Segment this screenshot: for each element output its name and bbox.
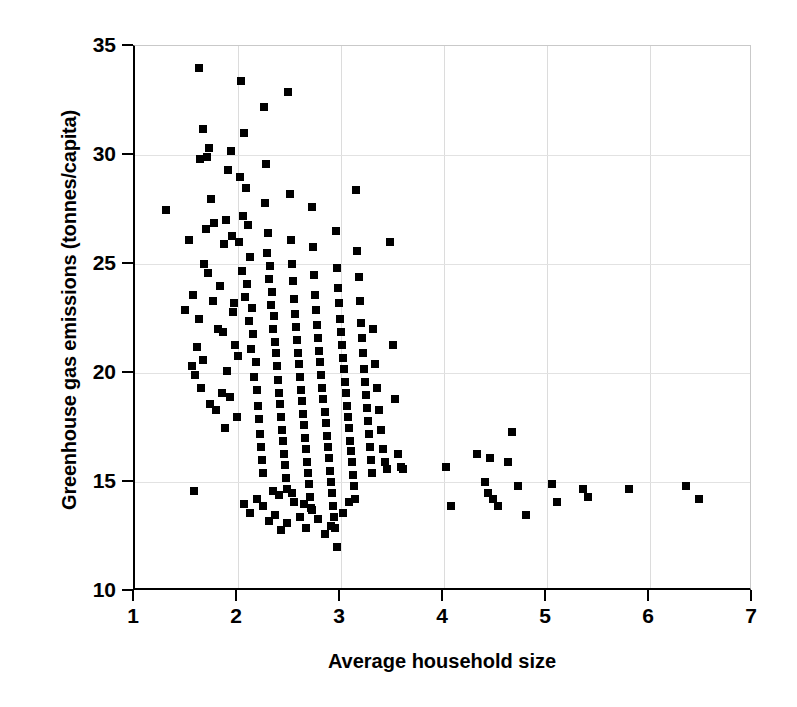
data-point: [259, 502, 267, 510]
data-point: [244, 221, 252, 229]
data-point: [353, 247, 361, 255]
x-axis-tick: [750, 590, 752, 601]
gridline-vertical: [238, 46, 239, 588]
data-point: [342, 389, 350, 397]
plot-area: [133, 45, 751, 590]
data-point: [481, 478, 489, 486]
data-point: [313, 321, 321, 329]
data-point: [330, 513, 338, 521]
data-point: [366, 443, 374, 451]
x-axis-tick: [544, 590, 546, 601]
data-point: [188, 362, 196, 370]
data-point: [368, 469, 376, 477]
data-point: [248, 304, 256, 312]
data-point: [282, 474, 290, 482]
data-point: [321, 530, 329, 538]
data-point: [284, 88, 292, 96]
data-point: [341, 378, 349, 386]
x-axis-tick: [441, 590, 443, 601]
data-point: [281, 461, 289, 469]
data-point: [349, 471, 357, 479]
data-point: [243, 280, 251, 288]
data-point: [297, 386, 305, 394]
data-point: [334, 284, 342, 292]
data-point: [234, 352, 242, 360]
data-point: [377, 426, 385, 434]
data-point: [522, 511, 530, 519]
data-point: [250, 373, 258, 381]
data-point: [340, 365, 348, 373]
data-point: [553, 498, 561, 506]
data-point: [357, 319, 365, 327]
data-point: [271, 338, 279, 346]
data-point: [302, 445, 310, 453]
data-point: [286, 190, 294, 198]
data-point: [257, 443, 265, 451]
data-point: [344, 413, 352, 421]
data-point: [314, 515, 322, 523]
data-point: [262, 160, 270, 168]
data-point: [230, 299, 238, 307]
data-point: [345, 424, 353, 432]
data-point: [222, 216, 230, 224]
data-point: [242, 184, 250, 192]
data-point: [356, 297, 364, 305]
data-point: [319, 395, 327, 403]
data-point: [246, 509, 254, 517]
data-point: [290, 295, 298, 303]
chart-figure: Greenhouse gas emissions (tonnes/capita)…: [0, 0, 797, 707]
data-point: [246, 253, 254, 261]
data-point: [625, 485, 633, 493]
data-point: [296, 373, 304, 381]
x-axis-tick-label: 6: [628, 604, 668, 628]
data-point: [219, 328, 227, 336]
data-point: [199, 125, 207, 133]
data-point: [287, 236, 295, 244]
data-point: [303, 458, 311, 466]
data-point: [332, 227, 340, 235]
data-point: [310, 271, 318, 279]
data-point: [205, 144, 213, 152]
data-point: [494, 502, 502, 510]
data-point: [383, 465, 391, 473]
data-point: [288, 489, 296, 497]
data-point: [579, 485, 587, 493]
data-point: [339, 509, 347, 517]
y-axis-tick: [122, 44, 133, 46]
data-point: [268, 288, 276, 296]
data-point: [326, 467, 334, 475]
data-point: [322, 419, 330, 427]
data-point: [288, 260, 296, 268]
y-axis-tick-label: 30: [76, 142, 116, 166]
data-point: [292, 323, 300, 331]
data-point: [231, 341, 239, 349]
x-axis-tick-label: 1: [113, 604, 153, 628]
data-point: [162, 206, 170, 214]
gridline-vertical: [650, 46, 651, 588]
data-point: [305, 480, 313, 488]
data-point: [266, 262, 274, 270]
data-point: [290, 498, 298, 506]
data-point: [504, 458, 512, 466]
data-point: [275, 389, 283, 397]
data-point: [233, 413, 241, 421]
data-point: [304, 469, 312, 477]
data-point: [245, 317, 253, 325]
gridline-horizontal: [135, 264, 750, 265]
y-axis-tick-label: 25: [76, 251, 116, 275]
x-axis-tick: [235, 590, 237, 601]
data-point: [274, 376, 282, 384]
data-point: [202, 225, 210, 233]
data-point: [311, 291, 319, 299]
data-point: [328, 489, 336, 497]
data-point: [241, 293, 249, 301]
data-point: [329, 502, 337, 510]
data-point: [229, 308, 237, 316]
data-point: [247, 345, 255, 353]
data-point: [314, 334, 322, 342]
data-point: [195, 64, 203, 72]
data-point: [394, 450, 402, 458]
data-point: [514, 482, 522, 490]
data-point: [218, 389, 226, 397]
data-point: [338, 341, 346, 349]
